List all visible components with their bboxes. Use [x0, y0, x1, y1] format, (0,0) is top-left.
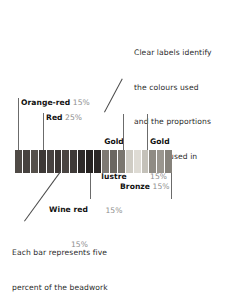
bar-segment: [126, 150, 134, 173]
bar-segment: [86, 150, 94, 173]
bar-strip: [15, 150, 172, 173]
label-gold-lustre-name-line-1: Gold: [97, 136, 131, 148]
label-gold-lustre: Gold lustre 15%: [97, 113, 131, 240]
bar-segment: [47, 150, 55, 173]
bar-segment: [134, 150, 142, 173]
bar-segment: [70, 150, 78, 173]
bar-segment: [78, 150, 86, 173]
label-gold-name: Gold: [150, 136, 184, 148]
leader-line-bronze: [171, 173, 172, 199]
annotation-top-right-line-1: Clear labels identify: [134, 47, 212, 59]
bar-segment: [142, 150, 150, 173]
label-bronze-name: Bronze: [120, 182, 150, 191]
bar-segment: [39, 150, 47, 173]
bar-segment: [15, 150, 23, 173]
leader-line-wine-red: [90, 173, 91, 199]
bar-segment: [157, 150, 165, 173]
bar-segment: [31, 150, 39, 173]
label-red-percent: 25%: [63, 113, 83, 122]
annotation-top-right-line-2: the colours used: [134, 82, 212, 94]
label-bronze-percent: 15%: [150, 182, 170, 191]
annotation-bottom-left-line-1: Each bar represents five: [12, 247, 108, 259]
leader-line-red: [43, 113, 44, 150]
annotation-bottom-left-line-2: percent of the beadwork: [12, 282, 108, 294]
leader-line-gold: [147, 114, 148, 150]
bar-segment: [110, 150, 118, 173]
leader-line-top-right: [104, 78, 123, 112]
label-gold-lustre-percent: 15%: [97, 205, 131, 217]
bar-segment: [94, 150, 102, 173]
bar-segment: [23, 150, 31, 173]
bar-segment: [118, 150, 126, 173]
bar-segment: [55, 150, 63, 173]
label-orange-red-percent: 15%: [70, 98, 90, 107]
annotation-bottom-left: Each bar represents five percent of the …: [12, 224, 108, 296]
leader-line-gold-lustre: [123, 114, 124, 150]
label-orange-red: Orange-red 15%: [21, 97, 90, 109]
label-bronze: Bronze 15%: [120, 181, 170, 193]
label-orange-red-name: Orange-red: [21, 98, 70, 107]
bar-segment: [165, 150, 172, 173]
label-red: Red 25%: [46, 112, 82, 124]
bar-segment: [62, 150, 70, 173]
bar-segment: [149, 150, 157, 173]
bar-segment: [102, 150, 110, 173]
leader-line-orange-red: [18, 98, 19, 150]
label-red-name: Red: [46, 113, 63, 122]
label-wine-red-name: Wine red: [48, 204, 88, 216]
